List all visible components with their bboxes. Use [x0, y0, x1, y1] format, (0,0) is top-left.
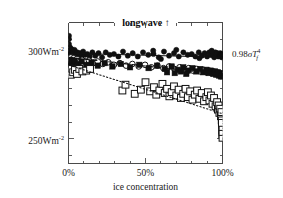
series-3: [67, 66, 226, 142]
svg-text:300Wm-2: 300Wm-2: [28, 45, 64, 57]
y-label-300-text: 300Wm: [28, 47, 59, 57]
data-point: [137, 86, 144, 93]
data-point: [137, 62, 142, 67]
data-point: [164, 70, 169, 75]
data-point: [218, 109, 225, 116]
chart-title: longwave ↑: [122, 17, 170, 28]
y-label-250-text: 250Wm: [28, 136, 59, 146]
data-point: [184, 71, 189, 76]
data-point: [140, 50, 145, 55]
data-point: [142, 79, 149, 86]
y-label-250-exponent: -2: [59, 134, 64, 141]
data-point: [120, 49, 125, 54]
data-point: [151, 48, 156, 53]
x-tick-label-50: 50%: [137, 168, 155, 178]
data-point: [209, 48, 214, 53]
data-point: [110, 64, 115, 69]
data-point: [158, 56, 163, 61]
data-point: [172, 70, 177, 75]
data-point: [66, 41, 71, 46]
data-point: [66, 33, 71, 38]
svg-text:250Wm-2: 250Wm-2: [28, 134, 64, 146]
x-axis-title: ice concentration: [113, 182, 178, 192]
data-series-layer: [66, 33, 226, 141]
sb-coefficient: 0.98: [232, 49, 248, 59]
data-point: [96, 51, 101, 56]
longwave-radiation-chart: longwave ↑ 300Wm-2 250Wm-2 0% 50% 100% i…: [0, 0, 283, 198]
x-tick-label-100: 100%: [211, 168, 233, 178]
x-tick-label-0: 0%: [62, 168, 75, 178]
data-point: [161, 49, 166, 54]
data-point: [125, 53, 130, 58]
y-tick-label-250: 250Wm-2: [28, 134, 64, 146]
data-point: [220, 52, 225, 57]
sb-subscript: f: [256, 54, 259, 61]
data-point: [99, 55, 104, 60]
sb-superscript: 4: [257, 47, 260, 54]
data-point: [127, 65, 132, 70]
data-point: [118, 61, 123, 66]
y-tick-label-300: 300Wm-2: [28, 45, 64, 57]
data-point: [218, 119, 225, 126]
y-label-300-exponent: -2: [59, 45, 64, 52]
stefan-boltzmann-annotation: 0.98σT4f: [232, 47, 260, 61]
data-point: [169, 64, 174, 69]
data-point: [95, 63, 100, 68]
chart-canvas: longwave ↑ 300Wm-2 250Wm-2 0% 50% 100% i…: [0, 0, 283, 198]
data-point: [174, 47, 179, 52]
